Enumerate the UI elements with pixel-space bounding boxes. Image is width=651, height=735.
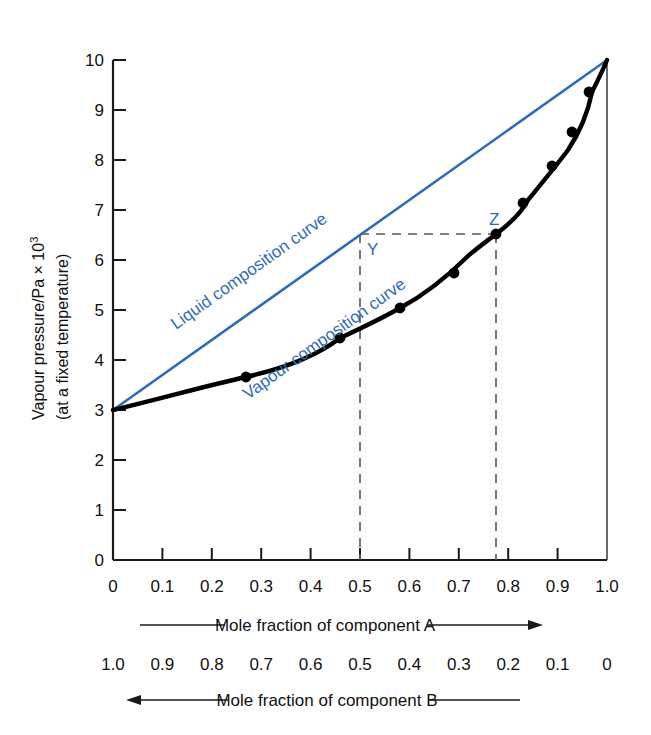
y-axis-label-group: Vapour pressure/Pa × 103 (at a fixed tem… bbox=[28, 237, 71, 420]
y-axis-label-line2: (at a fixed temperature) bbox=[54, 254, 71, 420]
x-bottom-tick-3: 0.7 bbox=[249, 655, 273, 674]
data-point-marker bbox=[518, 198, 529, 209]
x-bottom-tick-10: 0 bbox=[602, 655, 611, 674]
liquid-composition-curve-line bbox=[113, 60, 607, 410]
x-bottom-tick-8: 0.2 bbox=[496, 655, 520, 674]
y-tick-label-6: 6 bbox=[95, 251, 104, 270]
drop-lines bbox=[360, 234, 496, 560]
y-tick-label-10: 10 bbox=[85, 51, 104, 70]
component-b-caption-group: Mole fraction of component B bbox=[126, 691, 520, 710]
x-bottom-tick-5: 0.5 bbox=[348, 655, 372, 674]
x-top-tick-7: 0.7 bbox=[447, 577, 471, 596]
annotation-label-z: Z bbox=[489, 210, 499, 229]
x-bottom-tick-9: 0.1 bbox=[546, 655, 570, 674]
vapour-composition-curve-label: Vapour composition curve bbox=[239, 274, 409, 403]
x-top-tick-8: 0.8 bbox=[496, 577, 520, 596]
x-bottom-tick-2: 0.8 bbox=[200, 655, 224, 674]
x-top-tick-9: 0.9 bbox=[546, 577, 570, 596]
x-top-tick-6: 0.6 bbox=[398, 577, 422, 596]
x-top-tick-5: 0.5 bbox=[348, 577, 372, 596]
x-top-tick-3: 0.3 bbox=[249, 577, 273, 596]
y-tick-label-4: 4 bbox=[95, 351, 104, 370]
y-tick-label-9: 9 bbox=[95, 101, 104, 120]
x-bottom-tick-0: 1.0 bbox=[101, 655, 125, 674]
data-point-marker bbox=[547, 161, 558, 172]
x-tick-labels-top-scale: 0 0.1 0.2 0.3 0.4 0.5 0.6 0.7 0.8 0.9 1.… bbox=[108, 577, 619, 596]
y-tick-label-8: 8 bbox=[95, 151, 104, 170]
data-point-marker bbox=[449, 268, 460, 279]
x-tick-labels-bottom-scale: 1.0 0.9 0.8 0.7 0.6 0.5 0.4 0.3 0.2 0.1 … bbox=[101, 655, 612, 674]
x-top-tick-2: 0.2 bbox=[200, 577, 224, 596]
arrow-right-icon bbox=[528, 620, 543, 630]
x-top-tick-1: 0.1 bbox=[151, 577, 175, 596]
component-a-caption-group: Mole fraction of component A bbox=[140, 616, 543, 635]
x-axis-caption-component-b: Mole fraction of component B bbox=[216, 691, 437, 710]
x-top-tick-10: 1.0 bbox=[595, 577, 619, 596]
x-top-tick-0: 0 bbox=[108, 577, 117, 596]
y-tick-labels: 0 1 2 3 4 5 6 7 8 9 10 bbox=[85, 51, 104, 570]
y-tick-label-3: 3 bbox=[95, 401, 104, 420]
y-tick-label-1: 1 bbox=[95, 501, 104, 520]
arrow-left-icon bbox=[126, 695, 141, 705]
liquid-composition-curve-group bbox=[113, 60, 607, 410]
x-bottom-tick-6: 0.4 bbox=[398, 655, 422, 674]
annotation-label-y: Y bbox=[367, 240, 378, 259]
data-point-marker bbox=[567, 127, 578, 138]
data-point-marker-z bbox=[491, 229, 502, 240]
vapour-pressure-composition-chart: Vapour pressure/Pa × 103 (at a fixed tem… bbox=[0, 0, 651, 735]
y-tick-label-5: 5 bbox=[95, 301, 104, 320]
curve-label-group: Liquid composition curve Vapour composit… bbox=[167, 209, 409, 403]
y-tick-label-2: 2 bbox=[95, 451, 104, 470]
data-point-marker bbox=[395, 303, 406, 314]
chart-svg: Vapour pressure/Pa × 103 (at a fixed tem… bbox=[0, 0, 651, 735]
y-tick-label-0: 0 bbox=[95, 551, 104, 570]
data-point-marker bbox=[584, 87, 595, 98]
x-bottom-tick-4: 0.6 bbox=[299, 655, 323, 674]
x-top-tick-4: 0.4 bbox=[299, 577, 323, 596]
x-bottom-tick-7: 0.3 bbox=[447, 655, 471, 674]
x-bottom-tick-1: 0.9 bbox=[151, 655, 175, 674]
x-axis-caption-component-a: Mole fraction of component A bbox=[215, 616, 436, 635]
y-tick-label-7: 7 bbox=[95, 201, 104, 220]
y-axis-label-line1: Vapour pressure/Pa × 103 bbox=[28, 237, 47, 420]
y-ticks bbox=[113, 60, 126, 560]
